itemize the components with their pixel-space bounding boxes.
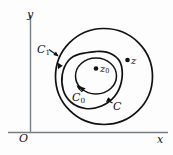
contour-c1-direction-arrow: [58, 63, 63, 70]
contour-c1-label-sub: 1: [45, 48, 50, 57]
y-axis-label: y: [27, 9, 33, 20]
point-z0-label: z0: [100, 64, 109, 75]
point-z0-label-sub: 0: [105, 67, 109, 75]
point-z-dot: [125, 58, 130, 63]
contour-c1-label: C1: [37, 44, 50, 56]
contour-c-label: C: [113, 101, 121, 112]
contour-c0-label-sub: 0: [80, 96, 85, 105]
point-z0-dot: [94, 66, 99, 71]
origin-label: O: [19, 133, 28, 144]
contour-c-label-main: C: [113, 100, 121, 113]
c1-leader-arrow: [53, 52, 58, 57]
contour-c0-label: C0: [72, 92, 85, 104]
point-z-label: z: [131, 56, 136, 66]
point-z-label-main: z: [131, 55, 136, 66]
contour-c1-outer-circle: [56, 29, 153, 125]
complex-contour-figure: y x O C1 C0 C z0 z: [0, 0, 173, 155]
x-axis-label: x: [157, 134, 163, 145]
